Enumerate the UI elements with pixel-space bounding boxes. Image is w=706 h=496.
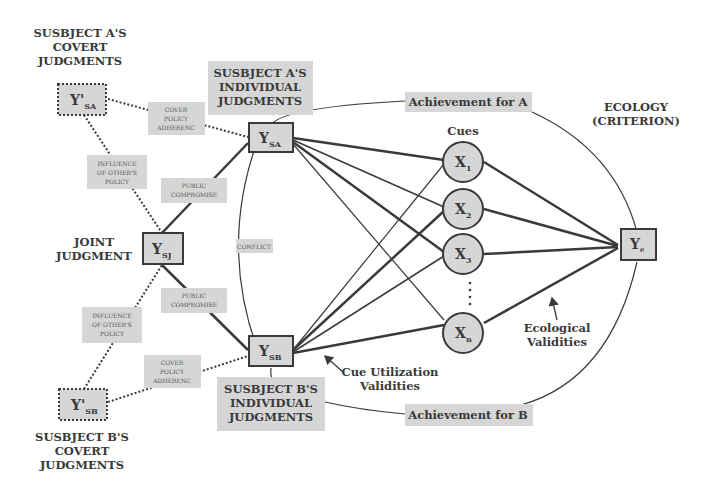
influence-label-a: INFLUENCE OF OTHER'S POLICY (87, 155, 147, 189)
node-y-prime-sa: Y'SA (58, 84, 106, 115)
node-y-sa: YSA (249, 123, 293, 152)
svg-text:JUDGMENTS: JUDGMENTS (228, 410, 313, 424)
svg-text:COMPROMISE: COMPROMISE (171, 191, 217, 198)
node-y-e: Ye (621, 229, 656, 260)
svg-text:COVERT: COVERT (53, 40, 108, 54)
influence-label-b: INFLUENCE OF OTHER'S POLICY (82, 307, 142, 343)
svg-text:Validities: Validities (526, 335, 587, 349)
public-compromise-label-a: PUBLIC COMPROMISE (161, 178, 227, 203)
svg-text:JUDGMENT: JUDGMENT (55, 249, 132, 263)
lens-model-diagram: SUSBJECT A'S COVERT JUDGMENTS SUSBJECT B… (0, 0, 706, 496)
svg-text:JUDGMENTS: JUDGMENTS (39, 458, 124, 472)
svg-text:OF OTHER'S: OF OTHER'S (97, 169, 137, 176)
svg-text:JUDGMENTS: JUDGMENTS (217, 94, 302, 108)
svg-text:SUSBJECT A'S: SUSBJECT A'S (213, 66, 306, 80)
svg-text:(CRITERION): (CRITERION) (592, 114, 680, 128)
achievement-b-label: Achievement for B (405, 404, 533, 426)
svg-text:Achievement for B: Achievement for B (407, 408, 528, 422)
cue-ellipsis (469, 282, 472, 306)
svg-text:ADHERENC: ADHERENC (156, 124, 195, 131)
cues-header: Cues (447, 124, 478, 138)
svg-text:ADHERENC: ADHERENC (152, 377, 191, 384)
ecological-validities-label: Ecological Validities (524, 321, 591, 349)
conflict-label: CONFLICT (236, 239, 273, 253)
node-y-prime-sb: Y'SB (59, 389, 107, 420)
ecological-validities-arrow (552, 298, 557, 320)
ecology-title: ECOLOGY (CRITERION) (592, 100, 680, 128)
svg-text:SUSBJECT A'S: SUSBJECT A'S (33, 26, 126, 40)
public-compromise-label-b: PUBLIC COMPROMISE (161, 288, 227, 313)
svg-text:POLICY: POLICY (160, 368, 185, 375)
svg-text:POLICY: POLICY (100, 330, 125, 337)
svg-text:COVER: COVER (161, 359, 184, 366)
svg-text:CONFLICT: CONFLICT (237, 243, 271, 250)
cue-x3: X3 (443, 234, 483, 274)
svg-text:Ecological: Ecological (524, 321, 591, 335)
cue-xn: Xn (443, 313, 483, 353)
svg-text:INDIVIDUAL: INDIVIDUAL (230, 396, 312, 410)
subject-a-covert-title: SUSBJECT A'S COVERT JUDGMENTS (33, 26, 126, 68)
svg-text:POLICY: POLICY (105, 178, 130, 185)
subject-a-individual-title: SUSBJECT A'S INDIVIDUAL JUDGMENTS (208, 61, 313, 115)
subject-b-covert-title: SUSBJECT B'S COVERT JUDGMENTS (35, 430, 129, 472)
svg-text:OF OTHER'S: OF OTHER'S (92, 321, 132, 328)
achievement-a-label: Achievement for A (405, 92, 532, 112)
svg-text:INFLUENCE: INFLUENCE (92, 312, 131, 319)
svg-text:ECOLOGY: ECOLOGY (604, 100, 669, 114)
svg-text:COMPROMISE: COMPROMISE (171, 301, 217, 308)
svg-text:JUDGMENTS: JUDGMENTS (37, 54, 122, 68)
cue-utilization-label: Cue Utilization Validities (342, 365, 440, 393)
svg-text:Validities: Validities (359, 379, 420, 393)
svg-text:POLICY: POLICY (164, 115, 189, 122)
svg-text:INFLUENCE: INFLUENCE (97, 160, 136, 167)
svg-text:INDIVIDUAL: INDIVIDUAL (219, 80, 301, 94)
svg-text:SUSBJECT B'S: SUSBJECT B'S (224, 382, 318, 396)
subject-b-individual-title: SUSBJECT B'S INDIVIDUAL JUDGMENTS (217, 377, 325, 431)
cover-policy-label-b: COVER POLICY ADHERENC (144, 355, 201, 388)
svg-text:Cue Utilization: Cue Utilization (342, 365, 440, 379)
cue-x2: X2 (443, 189, 483, 229)
svg-text:COVER: COVER (165, 106, 188, 113)
svg-text:Achievement for A: Achievement for A (408, 95, 529, 109)
svg-text:SUSBJECT B'S: SUSBJECT B'S (35, 430, 129, 444)
node-y-sb: YSB (249, 336, 293, 366)
joint-judgment-title: JOINT JUDGMENT (55, 235, 132, 263)
node-y-sj: YSJ (143, 233, 183, 264)
svg-text:JOINT: JOINT (73, 235, 114, 249)
svg-text:PUBLIC: PUBLIC (182, 182, 207, 189)
cue-utilization-arrow (325, 356, 343, 372)
cover-policy-label-a: COVER POLICY ADHERENC (148, 102, 205, 135)
svg-text:COVERT: COVERT (55, 444, 110, 458)
cue-x1: X1 (443, 142, 483, 182)
svg-text:PUBLIC: PUBLIC (182, 292, 207, 299)
